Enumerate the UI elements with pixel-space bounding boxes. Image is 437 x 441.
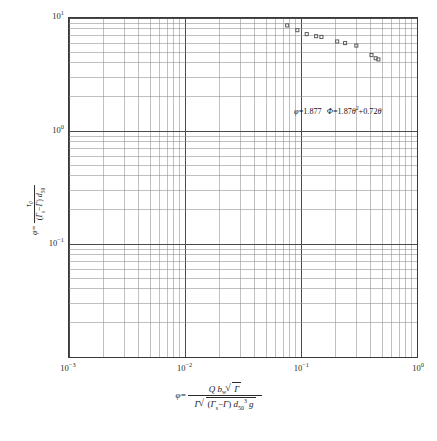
- data-point: [320, 35, 323, 38]
- y-title-equals: =: [30, 225, 39, 230]
- data-point: [286, 24, 289, 27]
- x-axis-tick-label: 10−3: [38, 364, 98, 373]
- x-title-equals: =: [180, 390, 186, 400]
- x-title-den-g-grav: g: [249, 399, 254, 409]
- x-title-den-close: ): [228, 399, 231, 409]
- y-title-den-gamma: Γ: [35, 202, 44, 207]
- x-title-num-sqrt-gamma: Γ: [234, 384, 239, 394]
- figure-container: φ=1.877Φ=1.87θ2+0.72θ 10−1100101102 φ=τ₀…: [0, 0, 437, 441]
- x-title-den-sqrt: (Γs−Γ) d503 g: [200, 397, 256, 409]
- data-point: [296, 29, 299, 32]
- data-point: [305, 33, 308, 36]
- data-points-layer: [69, 18, 417, 357]
- y-title-den-minus: −: [35, 206, 44, 211]
- y-title-den-d: d: [35, 193, 44, 197]
- x-axis-title: φ=Q bwΓΓ(Γs−Γ) d503 g: [0, 382, 437, 409]
- x-axis-tick-label: 10−1: [271, 364, 331, 373]
- annotation-value-3: +0.72: [359, 107, 378, 116]
- annotation-value-1: =1.877: [299, 107, 322, 116]
- y-title-den-gamma-s: Γ: [35, 213, 44, 218]
- x-axis-tick-labels: 10−310−210−1100: [68, 364, 418, 378]
- annotation-value-2: =1.87: [333, 107, 352, 116]
- y-title-den-close: ): [35, 199, 44, 202]
- y-axis-tick-label: 101: [18, 12, 64, 21]
- y-title-den-d-sub: 50: [40, 188, 46, 193]
- data-point: [344, 42, 347, 45]
- y-axis-tick-label: 100: [18, 126, 64, 135]
- data-point: [315, 35, 318, 38]
- x-axis-tick-label: 100: [388, 364, 437, 373]
- annotation-theta-2: θ: [378, 107, 382, 116]
- x-title-num-sqrt: Γ: [226, 382, 241, 394]
- x-title-den-d-sup: 3: [244, 398, 247, 404]
- data-point: [355, 44, 358, 47]
- y-axis-title: φ=τ₀(Γs−Γ) d50: [14, 150, 56, 270]
- data-point: [370, 54, 373, 57]
- x-title-num-Q: Q: [209, 384, 216, 394]
- data-point: [336, 40, 339, 43]
- plot-area: φ=1.877Φ=1.87θ2+0.72θ: [68, 17, 418, 358]
- y-title-den-gamma-s-sub: s: [40, 211, 46, 213]
- x-axis-tick-label: 10−2: [155, 364, 215, 373]
- data-point: [377, 58, 380, 61]
- x-title-fraction: Q bwΓΓ(Γs−Γ) d503 g: [188, 382, 261, 409]
- y-title-phi: φ: [30, 231, 39, 235]
- y-title-den-open: (: [35, 218, 44, 221]
- equation-annotation: φ=1.877Φ=1.87θ2+0.72θ: [294, 107, 381, 116]
- y-title-numerator: τ₀: [24, 201, 33, 207]
- y-title-fraction: τ₀(Γs−Γ) d50: [25, 185, 45, 223]
- x-title-den-d-sub: 50: [238, 404, 244, 410]
